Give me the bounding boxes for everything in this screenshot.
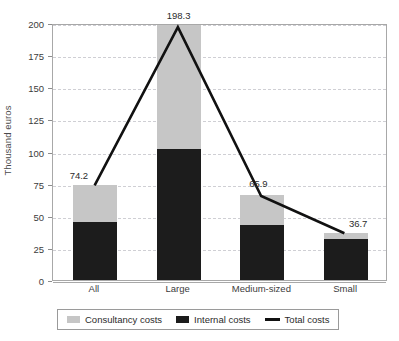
- data-label-total-costs: 36.7: [349, 218, 368, 229]
- x-tick-label-all: All: [89, 283, 100, 294]
- stacked-bar-line-chart: Thousand euros 0255075100125150175200 74…: [0, 0, 399, 341]
- legend-line-swatch-icon: [265, 318, 280, 321]
- y-tick-label: 200: [0, 19, 52, 30]
- legend-label: Consultancy costs: [85, 314, 162, 325]
- data-label-total-costs: 74.2: [70, 170, 89, 181]
- y-axis-tick-container: 0255075100125150175200: [0, 24, 52, 281]
- data-label-total-costs: 65.9: [249, 178, 268, 189]
- total-costs-line: [95, 27, 345, 233]
- data-label-total-costs: 198.3: [167, 10, 191, 21]
- y-tick-label: 50: [0, 211, 52, 222]
- x-axis-tick-container: AllLargeMedium-sizedSmall: [52, 283, 387, 303]
- legend-square-swatch-icon: [176, 316, 189, 323]
- y-tick-label: 125: [0, 115, 52, 126]
- y-tick-label: 175: [0, 51, 52, 62]
- y-tick-label: 150: [0, 83, 52, 94]
- y-tick-mark: [48, 281, 52, 282]
- legend-square-swatch-icon: [67, 316, 80, 323]
- plot-area: 74.2198.365.936.7: [52, 24, 387, 281]
- y-tick-label: 75: [0, 179, 52, 190]
- x-tick-label-small: Small: [333, 283, 357, 294]
- y-tick-label: 100: [0, 147, 52, 158]
- x-tick-label-large: Large: [165, 283, 189, 294]
- legend-item[interactable]: Internal costs: [176, 314, 251, 325]
- chart-legend: Consultancy costsInternal costsTotal cos…: [57, 309, 339, 330]
- legend-item[interactable]: Consultancy costs: [67, 314, 162, 325]
- legend-label: Internal costs: [194, 314, 251, 325]
- y-tick-label: 25: [0, 243, 52, 254]
- y-tick-label: 0: [0, 276, 52, 287]
- x-tick-label-medium-sized: Medium-sized: [232, 283, 291, 294]
- total-costs-line-layer: [53, 25, 386, 280]
- legend-item[interactable]: Total costs: [265, 314, 330, 325]
- legend-label: Total costs: [285, 314, 330, 325]
